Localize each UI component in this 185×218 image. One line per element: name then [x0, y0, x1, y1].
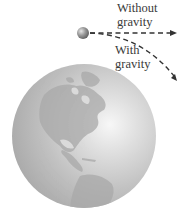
label-with-line2: gravity: [115, 58, 150, 71]
dashed-arrow-without-gravity: [90, 30, 177, 36]
ball-icon: [77, 27, 89, 39]
label-with-gravity: With gravity: [115, 44, 150, 71]
diagram-canvas: [0, 0, 185, 218]
label-without-gravity: Without gravity: [117, 2, 157, 29]
label-without-line2: gravity: [117, 16, 157, 29]
label-with-line1: With: [115, 44, 150, 57]
globe-icon: [12, 64, 156, 210]
label-without-line1: Without: [117, 2, 157, 15]
gravity-diagram: Without gravity With gravity: [0, 0, 185, 218]
